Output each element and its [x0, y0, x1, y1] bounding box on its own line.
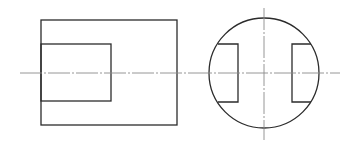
- front-view-inner-cutout: [41, 44, 111, 101]
- side-view: [190, 8, 340, 140]
- front-view: [20, 20, 190, 125]
- technical-drawing: [0, 0, 357, 149]
- front-view-outer-outline: [41, 20, 177, 125]
